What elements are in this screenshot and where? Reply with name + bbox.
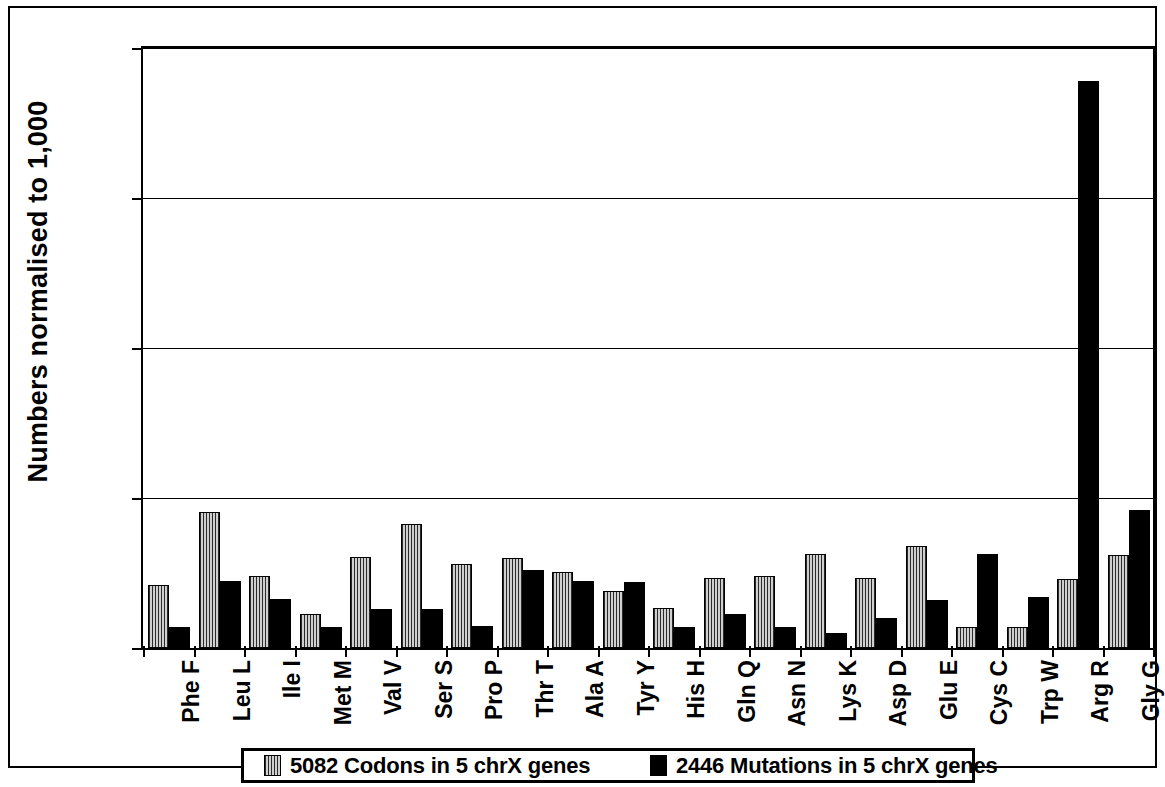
bar-codons	[956, 627, 977, 648]
bar-group	[951, 48, 1002, 648]
bar-group	[547, 48, 598, 648]
bar-codons	[451, 564, 472, 648]
bar-mutations	[220, 581, 241, 649]
plot-area	[141, 46, 1155, 650]
legend: 5082 Codons in 5 chrX genes 2446 Mutatio…	[241, 748, 975, 783]
bar-group	[598, 48, 649, 648]
bar-mutations	[472, 626, 493, 649]
bar-mutations	[977, 554, 998, 649]
x-tick-mark	[295, 646, 297, 657]
bar-mutations	[422, 609, 443, 648]
bar-codons	[754, 576, 775, 648]
bar-group	[901, 48, 952, 648]
bar-group	[1052, 48, 1103, 648]
bar-codons	[148, 585, 169, 648]
x-tick-mark	[1052, 646, 1054, 657]
x-tick-mark	[497, 646, 499, 657]
bar-mutations	[321, 627, 342, 648]
bar-group	[497, 48, 548, 648]
x-tick-label: Phe F	[178, 660, 205, 787]
legend-entry-codons: 5082 Codons in 5 chrX genes	[264, 753, 590, 779]
bar-codons	[1007, 627, 1028, 648]
legend-swatch-mutations-icon	[650, 755, 667, 776]
x-tick-mark	[699, 646, 701, 657]
x-tick-mark	[143, 646, 145, 657]
bar-group	[1103, 48, 1154, 648]
bar-group	[244, 48, 295, 648]
bar-codons	[704, 578, 725, 649]
x-tick-mark	[345, 646, 347, 657]
x-tick-mark	[951, 646, 953, 657]
bar-group	[699, 48, 750, 648]
bar-group	[143, 48, 194, 648]
x-tick-label: Gly G	[1138, 660, 1165, 787]
bar-group	[1002, 48, 1053, 648]
bar-codons	[199, 512, 220, 649]
x-tick-mark	[749, 646, 751, 657]
figure-border: Numbers normalised to 1,000 010020030040…	[8, 6, 1157, 768]
x-tick-mark	[1153, 646, 1155, 657]
bar-codons	[502, 558, 523, 648]
x-tick-mark	[396, 646, 398, 657]
bar-mutations	[1078, 81, 1099, 648]
legend-label-codons: 5082 Codons in 5 chrX genes	[290, 753, 590, 779]
bar-codons	[855, 578, 876, 649]
bar-mutations	[169, 627, 190, 648]
y-tick-mark	[132, 348, 143, 350]
bar-mutations	[826, 633, 847, 648]
bar-mutations	[1129, 510, 1150, 648]
bar-codons	[300, 614, 321, 649]
bar-mutations	[674, 627, 695, 648]
legend-label-mutations: 2446 Mutations in 5 chrX genes	[676, 753, 998, 779]
bar-mutations	[927, 600, 948, 648]
bar-group	[295, 48, 346, 648]
bar-group	[446, 48, 497, 648]
bar-codons	[552, 572, 573, 649]
x-tick-mark	[1002, 646, 1004, 657]
y-tick-mark	[132, 198, 143, 200]
x-tick-label: Trp W	[1037, 660, 1064, 787]
legend-entry-mutations: 2446 Mutations in 5 chrX genes	[650, 753, 998, 779]
bars-layer	[143, 48, 1153, 648]
bar-codons	[249, 576, 270, 648]
bar-mutations	[573, 581, 594, 649]
bar-codons	[350, 557, 371, 649]
x-tick-mark	[901, 646, 903, 657]
y-tick-mark	[132, 48, 143, 50]
bar-codons	[1057, 579, 1078, 648]
bar-mutations	[624, 582, 645, 648]
bar-mutations	[371, 609, 392, 648]
bar-codons	[603, 591, 624, 648]
legend-swatch-codons-icon	[264, 755, 281, 776]
bar-codons	[805, 554, 826, 649]
x-tick-mark	[1103, 646, 1105, 657]
bar-group	[850, 48, 901, 648]
bar-mutations	[725, 614, 746, 649]
x-tick-mark	[850, 646, 852, 657]
bar-group	[749, 48, 800, 648]
y-axis-title: Numbers normalised to 1,000	[23, 12, 54, 572]
y-tick-mark	[132, 498, 143, 500]
x-tick-mark	[244, 646, 246, 657]
x-tick-mark	[800, 646, 802, 657]
bar-group	[194, 48, 245, 648]
bar-codons	[401, 524, 422, 649]
bar-group	[396, 48, 447, 648]
x-tick-mark	[648, 646, 650, 657]
x-tick-mark	[194, 646, 196, 657]
bar-mutations	[270, 599, 291, 649]
bar-group	[800, 48, 851, 648]
bar-mutations	[1028, 597, 1049, 648]
bar-codons	[906, 546, 927, 648]
bar-codons	[653, 608, 674, 649]
bar-mutations	[876, 618, 897, 648]
bar-mutations	[523, 570, 544, 648]
bar-mutations	[775, 627, 796, 648]
bar-group	[648, 48, 699, 648]
bar-codons	[1108, 555, 1129, 648]
x-tick-mark	[547, 646, 549, 657]
x-tick-label: Arg R	[1087, 660, 1114, 787]
y-tick-mark	[132, 648, 143, 650]
x-tick-mark	[446, 646, 448, 657]
